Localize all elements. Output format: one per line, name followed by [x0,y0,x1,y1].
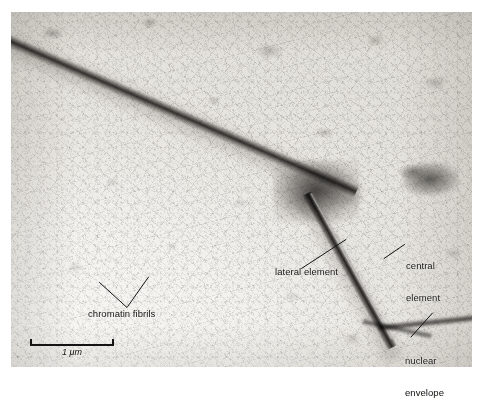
label-nuclear-envelope-line2: envelope [405,388,444,399]
plate-vignette [11,12,472,367]
micrograph-image [11,12,472,367]
